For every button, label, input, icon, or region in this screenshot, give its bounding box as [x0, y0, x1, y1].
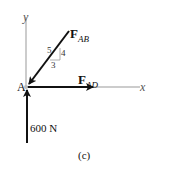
y-axis-label: y	[23, 11, 28, 23]
force-600n-label: 600 N	[30, 123, 57, 134]
slope-vert-label: 4	[61, 49, 66, 58]
slope-hyp-label: 5	[47, 46, 52, 55]
figure-caption: (c)	[78, 150, 90, 161]
slope-horiz-label: 3	[51, 61, 56, 70]
point-a-label: A	[17, 81, 26, 93]
x-axis-label: x	[140, 81, 145, 93]
force-ad-label: FAD	[78, 73, 98, 90]
force-ab-label: FAB	[70, 27, 89, 44]
